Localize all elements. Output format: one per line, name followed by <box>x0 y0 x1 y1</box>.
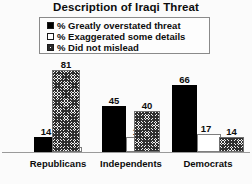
x-axis-line <box>2 152 250 153</box>
legend-item-exaggerated-details: % Exaggerated some details <box>47 31 209 42</box>
bar-value-label: 14 <box>219 126 244 137</box>
bar-value-label: 81 <box>52 59 80 70</box>
open-square-icon <box>47 33 54 40</box>
page-title: Description of Iraqi Threat <box>0 1 252 13</box>
bar-democrats-exaggerated <box>197 134 221 152</box>
chart-legend: % Greatly overstated threat % Exaggerate… <box>39 17 210 54</box>
bar-value-label: 17 <box>194 123 218 134</box>
legend-item-did-not-mislead: % Did not mislead <box>47 42 209 53</box>
bar-independents-not-mislead <box>134 111 160 152</box>
chart-plot-area: 14 4 81 45 14 40 66 17 14 <box>0 56 252 153</box>
bar-value-label: 66 <box>172 74 197 85</box>
legend-item-label: % Did not mislead <box>57 43 139 53</box>
bar-value-label: 45 <box>102 95 126 106</box>
hatched-square-icon <box>47 44 54 51</box>
legend-item-label: % Greatly overstated threat <box>57 21 181 31</box>
bar-democrats-overstated <box>172 85 197 152</box>
bar-republicans-not-mislead <box>52 70 80 152</box>
solid-square-icon <box>47 22 54 29</box>
x-axis-label-democrats: Democrats <box>162 158 252 169</box>
legend-item-greatly-overstated: % Greatly overstated threat <box>47 20 209 31</box>
bar-democrats-not-mislead <box>219 137 244 152</box>
bar-value-label: 40 <box>134 100 160 111</box>
legend-item-label: % Exaggerated some details <box>57 32 185 42</box>
bar-independents-overstated <box>102 106 126 152</box>
